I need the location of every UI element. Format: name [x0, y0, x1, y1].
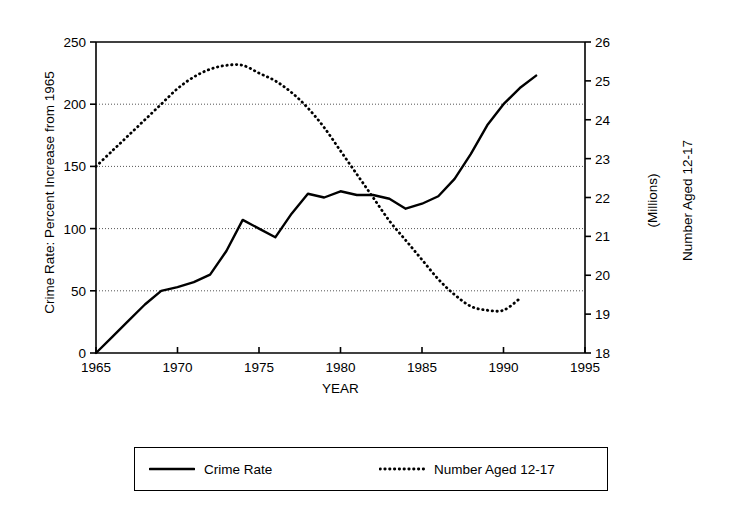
legend-label: Number Aged 12-17	[434, 462, 555, 477]
right-tick-label: 24	[595, 112, 610, 127]
series-line-2	[96, 65, 520, 312]
right-tick-label: 23	[595, 151, 610, 166]
x-tick-label: 1975	[244, 360, 274, 375]
x-axis-title: YEAR	[96, 381, 585, 396]
x-tick-label: 1980	[325, 360, 355, 375]
dotted-line-icon	[379, 463, 425, 475]
left-tick-label: 200	[63, 97, 86, 112]
plot-area	[0, 0, 735, 521]
left-tick-label: 50	[71, 283, 86, 298]
x-tick-label: 1985	[407, 360, 437, 375]
right-tick-label: 25	[595, 73, 610, 88]
x-tick-label: 1970	[162, 360, 192, 375]
right-tick-label: 18	[595, 346, 610, 361]
x-tick-label: 1990	[488, 360, 518, 375]
crime-rate-youth-population-chart: Crime Rate: Percent Increase from 1965 N…	[0, 0, 735, 521]
x-tick-label: 1965	[81, 360, 111, 375]
legend-item[interactable]: Number Aged 12-17	[379, 448, 555, 490]
left-tick-label: 250	[63, 35, 86, 50]
solid-line-icon	[149, 463, 195, 475]
right-axis-units: (Millions)	[645, 36, 660, 366]
right-tick-label: 26	[595, 35, 610, 50]
chart-legend: Crime RateNumber Aged 12-17	[134, 447, 608, 491]
left-tick-label: 150	[63, 159, 86, 174]
left-axis-title: Crime Rate: Percent Increase from 1965	[42, 28, 57, 358]
legend-label: Crime Rate	[204, 462, 272, 477]
left-tick-label: 0	[78, 346, 86, 361]
x-tick-label: 1995	[570, 360, 600, 375]
right-tick-label: 22	[595, 190, 610, 205]
right-tick-label: 21	[595, 229, 610, 244]
left-tick-label: 100	[63, 221, 86, 236]
right-tick-label: 20	[595, 268, 610, 283]
legend-item[interactable]: Crime Rate	[149, 448, 272, 490]
right-tick-label: 19	[595, 307, 610, 322]
right-axis-title: Number Aged 12-17	[680, 36, 695, 366]
